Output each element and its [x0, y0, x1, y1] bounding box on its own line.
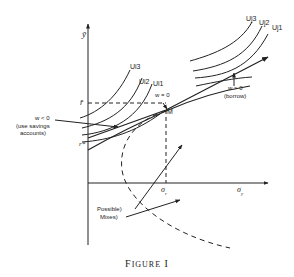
x-axis-label: σy [237, 186, 243, 196]
possible-mixes-curve [122, 111, 230, 248]
borrow-label: (borrow) [224, 93, 246, 99]
uj1-label: Uj1 [272, 24, 283, 31]
w-neg-pointer [55, 120, 118, 127]
mixes-label: Mixes) [100, 214, 118, 220]
indifference-curve-uj3 [190, 22, 252, 61]
possible-label: Possible) [97, 206, 122, 212]
point-m-label: M [167, 108, 173, 115]
w-zero-label: w = 0 [155, 92, 170, 98]
w-neg-label: w < 0 [35, 115, 50, 121]
possible-pointer-1 [135, 145, 182, 209]
figure-diagram [0, 0, 294, 277]
figure-caption: FIGURE I [0, 258, 294, 269]
r-bar-label: r̄ [80, 99, 83, 107]
savings-label-2: accounts) [20, 130, 46, 136]
uj2-label: Uj2 [259, 19, 270, 26]
y-axis-label: ȳ [82, 30, 86, 39]
ui3-label: Ui3 [130, 63, 141, 70]
indifference-curve-uj2 [193, 26, 262, 71]
r-star-label: r* [79, 141, 85, 148]
w-pos-label: w > 0 [228, 85, 243, 91]
savings-label-1: (use savings [16, 123, 50, 129]
ui2-label: Ui2 [139, 78, 150, 85]
ui1-label: Ui1 [153, 80, 164, 87]
indifference-curve-uj0 [196, 77, 252, 86]
sigma-r-label: σr [161, 186, 167, 196]
uj3-label: Uj3 [246, 15, 257, 22]
